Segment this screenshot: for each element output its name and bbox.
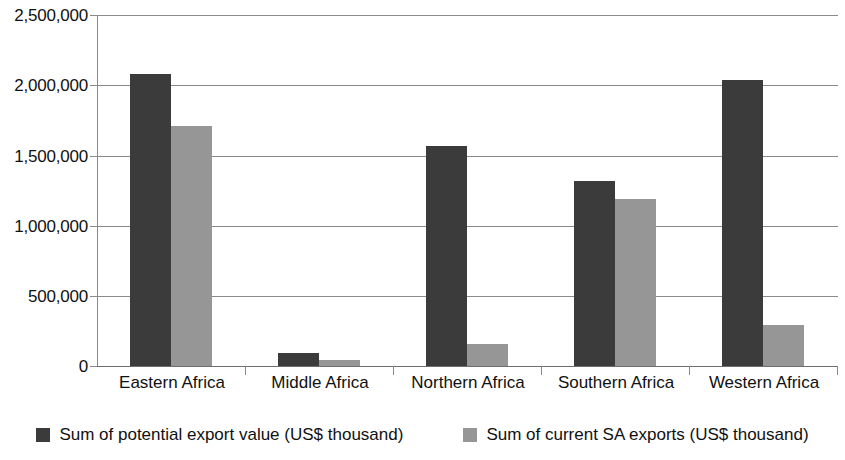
bar-group-eastern-africa: [98, 15, 246, 366]
y-axis-tick-mark: [90, 85, 97, 86]
legend-swatch-gray-icon: [463, 428, 477, 442]
y-axis-tick-label: 2,000,000: [0, 77, 88, 94]
legend-swatch-dark-icon: [36, 428, 50, 442]
legend-item-potential-export-value: Sum of potential export value (US$ thous…: [36, 425, 403, 444]
legend-item-current-sa-exports: Sum of current SA exports (US$ thousand): [463, 425, 808, 444]
y-axis-labels: 2,500,000 2,000,000 1,500,000 1,000,000 …: [0, 0, 88, 380]
x-axis-category-label: Western Africa: [690, 371, 838, 395]
y-axis-tick-mark: [90, 226, 97, 227]
y-axis-tick-label: 0: [0, 358, 88, 375]
y-axis-tick-mark: [90, 156, 97, 157]
bar-group-northern-africa: [394, 15, 542, 366]
bar-potential-export-value: [278, 353, 319, 366]
y-axis-tick-mark: [90, 296, 97, 297]
x-axis-category-label: Northern Africa: [394, 371, 542, 395]
y-axis-tick-label: 2,500,000: [0, 7, 88, 24]
legend-label: Sum of current SA exports (US$ thousand): [486, 425, 808, 444]
x-axis-line: [97, 366, 838, 367]
y-axis-tick-label: 500,000: [0, 288, 88, 305]
x-axis-category-label: Eastern Africa: [98, 371, 246, 395]
bar-groups: [98, 15, 838, 366]
y-axis-tick-label: 1,500,000: [0, 148, 88, 165]
y-axis-tick-mark: [90, 15, 97, 16]
x-axis-labels: Eastern Africa Middle Africa Northern Af…: [98, 371, 838, 395]
bar-group-southern-africa: [542, 15, 690, 366]
bar-potential-export-value: [574, 181, 615, 366]
bar-current-sa-exports: [467, 344, 508, 366]
bar-potential-export-value: [130, 74, 171, 366]
bar-current-sa-exports: [763, 325, 804, 366]
bar-current-sa-exports: [615, 199, 656, 366]
x-axis-category-label: Southern Africa: [542, 371, 690, 395]
y-axis-tick-mark: [90, 366, 97, 367]
bar-chart: 2,500,000 2,000,000 1,500,000 1,000,000 …: [0, 0, 845, 460]
legend-label: Sum of potential export value (US$ thous…: [59, 425, 403, 444]
bar-current-sa-exports: [171, 126, 212, 366]
x-axis-category-label: Middle Africa: [246, 371, 394, 395]
bar-group-western-africa: [690, 15, 838, 366]
bar-group-middle-africa: [246, 15, 394, 366]
bar-potential-export-value: [426, 146, 467, 366]
chart-legend: Sum of potential export value (US$ thous…: [0, 425, 845, 444]
y-axis-tick-label: 1,000,000: [0, 218, 88, 235]
bar-current-sa-exports: [319, 360, 360, 366]
bar-potential-export-value: [722, 80, 763, 366]
